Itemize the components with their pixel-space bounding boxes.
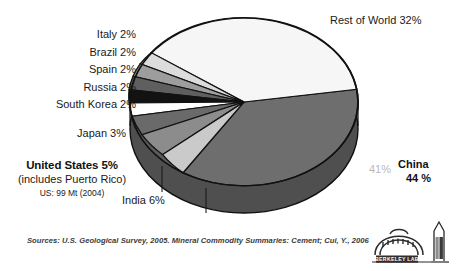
label-china: China xyxy=(398,158,431,171)
label-russia: Russia 2% xyxy=(0,79,136,97)
chart-page: Italy 2% Brazil 2% Spain 2% Russia 2% So… xyxy=(0,0,456,271)
pie-top-face xyxy=(129,18,358,186)
label-united-states: United States 5% xyxy=(0,158,144,172)
left-label-group: Italy 2% Brazil 2% Spain 2% Russia 2% So… xyxy=(0,26,136,114)
label-brazil: Brazil 2% xyxy=(0,44,136,62)
logo-wordmark: BERKELEY LAB xyxy=(375,256,419,262)
source-mark-icon: □ xyxy=(344,236,348,243)
label-china-value: 44 % xyxy=(398,171,431,185)
pie-chart xyxy=(128,6,378,221)
source-note: Sources: U.S. Geological Survey, 2005. M… xyxy=(27,236,369,245)
label-italy: Italy 2% xyxy=(0,26,136,44)
berkeley-lab-logo: BERKELEY LAB xyxy=(371,211,453,269)
label-japan: Japan 3% xyxy=(0,127,126,140)
label-rest-of-world: Rest of World 32% xyxy=(330,14,422,27)
label-spain: Spain 2% xyxy=(0,61,136,79)
label-united-states-note: (includes Puerto Rico) xyxy=(0,172,144,186)
label-south-korea: South Korea 2% xyxy=(0,96,136,114)
label-china-group: China 44 % xyxy=(398,158,431,185)
label-china-ghost-value: 41% xyxy=(369,163,391,175)
label-india: India 6% xyxy=(122,194,165,207)
